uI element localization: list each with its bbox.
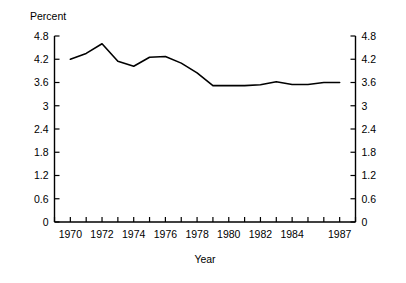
x-axis-title: Year	[194, 253, 216, 265]
y-tick-label-right: 1.2	[362, 169, 377, 181]
x-tick-label: 1987	[328, 228, 352, 240]
y-axis-ticks-left: 4.84.23.632.41.81.20.60	[34, 30, 60, 228]
x-tick-label: 1976	[154, 228, 178, 240]
y-axis-title: Percent	[30, 10, 66, 22]
y-tick-label-right: 3.6	[362, 76, 377, 88]
y-tick-label: 1.8	[34, 146, 49, 158]
x-tick-label: 1974	[122, 228, 146, 240]
y-tick-label: 0	[43, 216, 49, 228]
x-tick-label: 1980	[217, 228, 241, 240]
y-tick-label: 2.4	[34, 123, 49, 135]
y-tick-label-right: 4.8	[362, 30, 377, 42]
x-axis-tick-labels: 197019721974197619781980198219841987	[59, 228, 352, 240]
x-tick-label: 1972	[90, 228, 114, 240]
chart-container: Percent Year 4.84.23.632.41.81.20.60 4.8…	[0, 0, 406, 283]
y-tick-label-right: 4.2	[362, 53, 377, 65]
x-tick-label: 1984	[280, 228, 304, 240]
y-tick-label: 4.2	[34, 53, 49, 65]
data-series-line	[70, 44, 339, 86]
x-tick-label: 1970	[59, 228, 83, 240]
x-tick-label: 1982	[249, 228, 273, 240]
y-axis-ticks-right: 4.84.23.632.41.81.20.60	[351, 30, 377, 228]
y-tick-label: 3	[43, 100, 49, 112]
y-tick-label-right: 1.8	[362, 146, 377, 158]
x-axis-ticks	[55, 217, 356, 222]
y-tick-label-right: 3	[362, 100, 368, 112]
y-tick-label: 0.6	[34, 193, 49, 205]
y-tick-label-right: 0.6	[362, 193, 377, 205]
y-tick-label: 1.2	[34, 169, 49, 181]
x-tick-label: 1978	[185, 228, 209, 240]
line-chart: Percent Year 4.84.23.632.41.81.20.60 4.8…	[0, 0, 406, 283]
y-tick-label-right: 2.4	[362, 123, 377, 135]
y-tick-label: 4.8	[34, 30, 49, 42]
y-tick-label-right: 0	[362, 216, 368, 228]
y-tick-label: 3.6	[34, 76, 49, 88]
